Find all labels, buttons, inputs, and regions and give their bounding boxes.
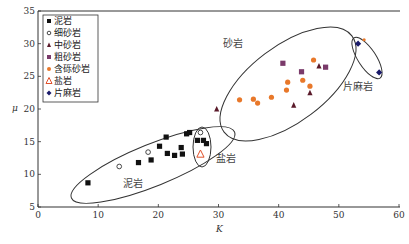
- data-point: [197, 150, 204, 157]
- x-tick-label: 30: [213, 210, 225, 220]
- data-point: [214, 106, 219, 112]
- legend-item-label: 中砂岩: [54, 39, 81, 50]
- y-axis-label: μ: [12, 103, 18, 113]
- data-point: [187, 130, 192, 135]
- data-point: [376, 69, 382, 75]
- region-label-sandstone: 砂岩: [223, 37, 243, 49]
- data-point: [307, 90, 312, 96]
- data-point: [363, 38, 366, 41]
- data-point: [47, 55, 51, 59]
- y-tick-label: 15: [24, 137, 36, 147]
- x-tick-label: 20: [153, 210, 165, 220]
- x-axis-label: K: [215, 224, 224, 234]
- data-point: [172, 153, 177, 158]
- y-tick-label: 5: [29, 202, 35, 212]
- legend: 泥岩细砂岩中砂岩粗砂岩含砾砂岩盐岩片麻岩: [43, 15, 98, 102]
- data-point: [255, 101, 260, 106]
- data-point: [164, 134, 169, 139]
- data-point: [323, 65, 328, 70]
- region-ellipse: [64, 113, 243, 218]
- data-point: [157, 144, 162, 149]
- data-point: [291, 102, 296, 108]
- data-point: [117, 164, 122, 169]
- data-point: [307, 84, 312, 89]
- data-point: [299, 69, 304, 74]
- y-tick-label: 25: [24, 71, 36, 81]
- legend-item-label: 细砂岩: [54, 27, 81, 38]
- data-point: [136, 160, 141, 165]
- region-ellipse: [346, 33, 387, 83]
- data-point: [165, 151, 170, 156]
- data-point: [146, 150, 151, 155]
- x-tick-label: 40: [273, 210, 285, 220]
- data-point: [179, 145, 184, 150]
- data-point: [85, 180, 90, 185]
- data-point: [47, 31, 51, 35]
- data-point: [204, 141, 209, 146]
- data-point: [237, 97, 242, 102]
- y-tick-label: 30: [24, 39, 36, 49]
- data-point: [47, 19, 51, 23]
- region-label-salt: 盐岩: [216, 152, 236, 164]
- x-tick-label: 10: [92, 210, 104, 220]
- region-label-mudstone: 泥岩: [123, 177, 143, 189]
- data-point: [311, 57, 316, 62]
- data-point: [285, 80, 290, 85]
- x-tick-label: 60: [393, 210, 405, 220]
- data-point: [47, 67, 51, 71]
- x-tick-label: 50: [333, 210, 345, 220]
- data-point: [300, 78, 305, 83]
- y-tick-label: 10: [24, 169, 36, 179]
- x-tick-label: 0: [35, 210, 41, 220]
- legend-item-label: 粗砂岩: [54, 51, 81, 62]
- legend-item-label: 泥岩: [54, 15, 72, 26]
- data-point: [284, 87, 289, 92]
- data-point: [180, 151, 185, 156]
- scatter-chart: 0102030405060 5101520253035 K μ 砂岩 片麻岩 盐…: [0, 0, 409, 244]
- data-point: [251, 97, 256, 102]
- data-point: [195, 138, 200, 143]
- data-point: [280, 61, 285, 66]
- legend-item-label: 盐岩: [54, 75, 72, 86]
- y-tick-label: 20: [24, 104, 36, 114]
- data-point: [149, 157, 154, 162]
- y-tick-label: 35: [24, 6, 36, 16]
- data-point: [316, 63, 321, 69]
- region-label-schist: 片麻岩: [343, 80, 373, 92]
- legend-item-label: 含砾砂岩: [54, 63, 90, 74]
- data-point: [198, 130, 203, 135]
- data-point: [269, 95, 274, 100]
- legend-item-label: 片麻岩: [54, 87, 81, 98]
